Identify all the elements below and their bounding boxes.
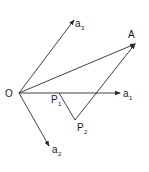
vector-OA-arrow [19, 44, 135, 93]
label-P2: P [77, 122, 84, 133]
segment-P2-A [75, 44, 135, 120]
axis-a2-arrow [19, 93, 49, 146]
label-a3-sub: 3 [81, 25, 85, 31]
label-O: O [5, 88, 13, 99]
label-a2-sub: 2 [58, 151, 62, 157]
segment-P1-P2 [59, 93, 75, 120]
label-A: A [128, 29, 135, 40]
label-a1-sub: 1 [129, 95, 133, 101]
label-P1: P [51, 94, 58, 105]
vector-diagram: O A P 1 P 2 a 1 a 2 a 3 [0, 0, 149, 172]
label-P2-sub: 2 [84, 129, 88, 135]
label-P1-sub: 1 [58, 101, 62, 107]
axis-a3-arrow [19, 20, 74, 93]
